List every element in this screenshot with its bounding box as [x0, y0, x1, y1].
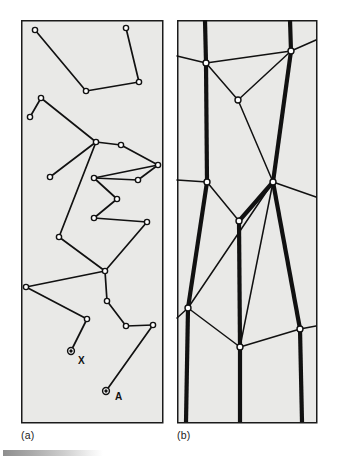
panel-b-node	[185, 305, 191, 311]
panel-b-caption: (b)	[177, 429, 190, 441]
panel-b-thick-edge	[206, 63, 207, 182]
panel-a-node	[93, 139, 98, 144]
gradient-bar	[3, 450, 103, 456]
panel-a-node	[136, 79, 141, 84]
panel-a-node	[123, 25, 128, 30]
panel-a-point-label-a: A	[115, 391, 122, 402]
figure-root: XA (a) (b)	[0, 0, 338, 458]
panel-a-node	[84, 316, 89, 321]
panel-a-node	[114, 196, 119, 201]
panel-a-edge	[126, 325, 153, 326]
panel-a-node	[91, 215, 96, 220]
panel-b-thick-edge	[290, 20, 291, 51]
panel-b	[177, 20, 317, 423]
panel-a-node	[47, 174, 52, 179]
panel-b-thick-edge	[239, 221, 240, 347]
point-a-dot	[104, 389, 107, 392]
panel-a-node	[155, 162, 160, 167]
panel-b-node	[270, 179, 276, 185]
panel-b-frame	[178, 21, 317, 423]
figure-canvas: XA	[0, 0, 338, 458]
panel-b-node	[203, 60, 209, 66]
panel-a: XA	[22, 21, 163, 423]
panel-a-node	[23, 284, 28, 289]
panel-b-node	[237, 344, 243, 350]
panel-b-node	[297, 326, 303, 332]
panel-b-node	[235, 97, 241, 103]
panel-b-thick-edge	[205, 20, 206, 63]
panel-a-node	[118, 142, 123, 147]
panel-b-thick-edge	[186, 308, 188, 422]
panel-a-node	[104, 298, 109, 303]
panel-b-node	[204, 179, 210, 185]
panel-a-node	[56, 234, 61, 239]
point-x-dot	[69, 349, 72, 352]
panel-a-point-label-x: X	[78, 355, 85, 366]
panel-a-node	[102, 268, 107, 273]
panel-a-node	[38, 95, 43, 100]
panel-b-node	[236, 218, 242, 224]
panel-a-node	[91, 175, 96, 180]
panel-a-caption: (a)	[21, 429, 34, 441]
panel-a-node	[135, 177, 140, 182]
panel-a-node	[32, 27, 37, 32]
panel-a-node	[27, 114, 32, 119]
panel-b-node	[288, 48, 294, 54]
panel-a-node	[83, 88, 88, 93]
panel-a-node	[123, 323, 128, 328]
panel-a-node	[150, 322, 155, 327]
panel-a-node	[144, 219, 149, 224]
panel-b-thick-edge	[300, 329, 302, 422]
